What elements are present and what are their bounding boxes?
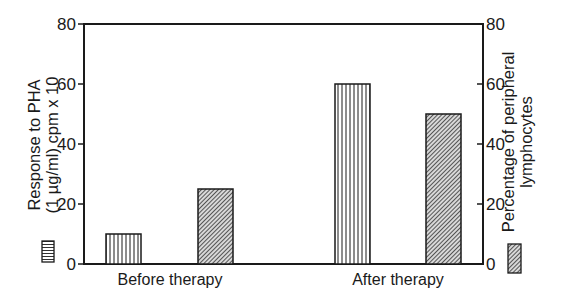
bar-before-lymphocyte-percentage xyxy=(198,189,233,264)
right-axis-title-line2: lymphocytes xyxy=(517,96,535,188)
bar-after-pha-response xyxy=(335,84,370,264)
left-y-axis: 020406080 xyxy=(57,15,84,274)
right-legend-swatch xyxy=(508,244,521,273)
bar-chart: 020406080 020406080 Before therapy After… xyxy=(0,0,571,302)
left-legend-swatch xyxy=(42,241,54,262)
category-label-before: Before therapy xyxy=(118,271,223,288)
right-tick-label: 80 xyxy=(486,15,505,34)
category-label-after: After therapy xyxy=(352,271,444,288)
right-axis-title: Percentage of peripheral lymphocytes xyxy=(499,52,535,233)
bars xyxy=(106,84,461,264)
left-axis-title-line1: Response to PHA xyxy=(25,79,43,210)
left-axis-title: Response to PHA (1 µg/ml) cpm x 10 xyxy=(25,77,61,214)
left-tick-label: 0 xyxy=(67,255,76,274)
right-tick-label: 0 xyxy=(486,255,495,274)
left-axis-title-line2: (1 µg/ml) cpm x 10 xyxy=(43,77,61,214)
plot-frame xyxy=(83,23,484,265)
right-axis-title-line1: Percentage of peripheral xyxy=(499,52,517,233)
bar-after-lymphocyte-percentage xyxy=(426,114,461,264)
left-tick-label: 80 xyxy=(57,15,76,34)
bar-before-pha-response xyxy=(106,234,141,264)
